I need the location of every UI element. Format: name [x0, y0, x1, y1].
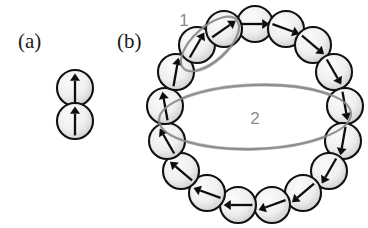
spin-b-09 [254, 187, 290, 223]
spin-b-13 [149, 123, 185, 159]
figure-canvas: (a) (b) 12 [0, 0, 368, 228]
annotation-group-2-label: 2 [250, 109, 259, 128]
spin-configuration-figure: (a) (b) 12 [0, 0, 368, 228]
spin-a-bottom [57, 103, 93, 139]
panel-a-label: (a) [18, 29, 41, 53]
spin-b-04 [316, 54, 352, 90]
annotation-group-1-label: 1 [179, 11, 188, 30]
spin-b-01 [237, 6, 273, 42]
spin-a-top [57, 70, 93, 106]
spin-b-05 [327, 88, 363, 124]
panel-b-label: (b) [117, 29, 142, 53]
spin-b-14 [147, 88, 183, 124]
